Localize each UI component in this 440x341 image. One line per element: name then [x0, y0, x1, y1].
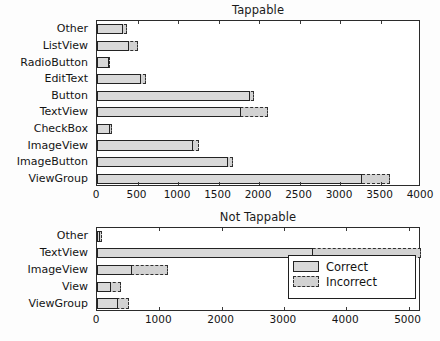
bar-correct-edittext: [97, 74, 141, 84]
x-tick-label-3000: 3000: [270, 313, 297, 325]
x-tick-label-1500: 1500: [204, 188, 231, 200]
y-tick-label-button: Button: [51, 88, 88, 101]
bar-group-edittext: [97, 74, 419, 84]
x-tick-bottom: [219, 182, 220, 185]
x-tick-label-1000: 1000: [164, 188, 191, 200]
x-tick-top: [138, 21, 139, 24]
x-tick-label-500: 500: [126, 188, 146, 200]
panel-tappable: Tappable OtherListViewRadioButtonEditTex…: [0, 0, 440, 205]
y-tick-label-view: View: [62, 279, 88, 292]
bar-correct-checkbox: [97, 124, 110, 134]
bar-correct-textview: [97, 248, 313, 258]
x-tick-top: [340, 21, 341, 24]
bar-group-other: [97, 231, 419, 241]
y-tick-label-viewgroup: ViewGroup: [28, 171, 88, 184]
x-tick-top: [259, 21, 260, 24]
bar-group-viewgroup: [97, 298, 419, 308]
chart-title-tappable: Tappable: [96, 3, 420, 17]
y-axis-labels-tappable: OtherListViewRadioButtonEditTextButtonTe…: [0, 20, 92, 186]
x-tick-top: [219, 21, 220, 24]
plot-area-tappable: [96, 20, 420, 186]
x-tick-bottom: [159, 307, 160, 310]
y-tick-label-viewgroup: ViewGroup: [28, 296, 88, 309]
x-tick-label-3500: 3500: [366, 188, 393, 200]
y-tick-label-checkbox: CheckBox: [34, 121, 88, 134]
bar-correct-view: [97, 282, 111, 292]
x-tick-label-4000: 4000: [332, 313, 359, 325]
legend-swatch-incorrect-icon: [293, 276, 319, 287]
x-tick-bottom: [381, 182, 382, 185]
legend-label-incorrect: Incorrect: [326, 275, 377, 289]
x-tick-label-1000: 1000: [145, 313, 172, 325]
x-tick-bottom: [409, 307, 410, 310]
x-tick-label-2000: 2000: [245, 188, 272, 200]
bar-correct-other: [97, 24, 123, 34]
bar-group-imagebutton: [97, 157, 419, 167]
x-tick-label-2000: 2000: [207, 313, 234, 325]
bar-correct-textview: [97, 107, 241, 117]
x-tick-label-0: 0: [93, 313, 100, 325]
x-tick-label-3000: 3000: [326, 188, 353, 200]
y-tick-label-radiobutton: RadioButton: [20, 55, 88, 68]
y-tick-label-listview: ListView: [43, 38, 88, 51]
bar-group-radiobutton: [97, 57, 419, 67]
y-tick-label-imagebutton: ImageButton: [17, 155, 88, 168]
bar-correct-button: [97, 91, 250, 101]
x-tick-top: [178, 21, 179, 24]
panel-not-tappable: Not Tappable OtherTextViewImageViewViewV…: [0, 205, 440, 341]
bar-group-checkbox: [97, 124, 419, 134]
legend-row-incorrect: Incorrect: [293, 274, 410, 289]
bar-group-button: [97, 91, 419, 101]
x-tick-label-5000: 5000: [394, 313, 421, 325]
chart-title-not-tappable: Not Tappable: [96, 210, 420, 224]
bar-correct-viewgroup: [97, 298, 118, 308]
legend-row-correct: Correct: [293, 259, 410, 274]
x-axis-labels-tappable: 05001000150020002500300035004000: [0, 188, 440, 202]
x-tick-bottom: [178, 182, 179, 185]
x-tick-bottom: [222, 307, 223, 310]
x-tick-top: [159, 228, 160, 231]
x-tick-label-2500: 2500: [285, 188, 312, 200]
legend-label-correct: Correct: [326, 260, 368, 274]
y-tick-label-textview: TextView: [40, 246, 88, 259]
y-tick-label-imageview: ImageView: [27, 263, 88, 276]
x-tick-top: [409, 228, 410, 231]
figure-root: Tappable OtherListViewRadioButtonEditTex…: [0, 0, 440, 341]
x-tick-top: [346, 228, 347, 231]
x-tick-top: [222, 228, 223, 231]
bar-correct-imageview: [97, 140, 193, 150]
bar-group-imageview: [97, 140, 419, 150]
y-tick-label-edittext: EditText: [44, 72, 88, 85]
bar-correct-listview: [97, 41, 129, 51]
x-tick-bottom: [138, 182, 139, 185]
x-tick-bottom: [300, 182, 301, 185]
bar-correct-imagebutton: [97, 157, 228, 167]
bar-correct-radiobutton: [97, 57, 109, 67]
x-tick-bottom: [259, 182, 260, 185]
chart-legend: Correct Incorrect: [288, 255, 416, 299]
y-tick-label-other: Other: [57, 22, 88, 35]
y-tick-label-textview: TextView: [40, 105, 88, 118]
y-tick-label-imageview: ImageView: [27, 138, 88, 151]
bar-correct-imageview: [97, 265, 132, 275]
bar-group-viewgroup: [97, 174, 419, 184]
bar-correct-other: [97, 231, 100, 241]
y-axis-labels-not-tappable: OtherTextViewImageViewViewViewGroup: [0, 227, 92, 311]
x-tick-bottom: [340, 182, 341, 185]
x-tick-bottom: [346, 307, 347, 310]
x-tick-label-4000: 4000: [407, 188, 434, 200]
y-tick-label-other: Other: [57, 229, 88, 242]
x-axis-labels-not-tappable: 010002000300040005000: [0, 313, 440, 327]
x-tick-top: [381, 21, 382, 24]
x-tick-label-0: 0: [93, 188, 100, 200]
bar-group-listview: [97, 41, 419, 51]
bar-group-other: [97, 24, 419, 34]
x-tick-top: [284, 228, 285, 231]
bar-group-textview: [97, 107, 419, 117]
legend-swatch-correct-icon: [293, 261, 319, 272]
x-tick-bottom: [284, 307, 285, 310]
x-tick-top: [300, 21, 301, 24]
